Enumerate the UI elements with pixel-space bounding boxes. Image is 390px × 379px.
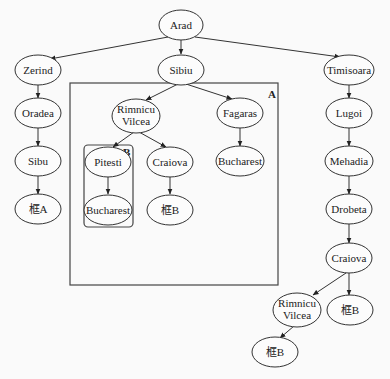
node-bucharest-pitesti: Bucharest xyxy=(84,195,132,225)
svg-text:Craiova: Craiova xyxy=(153,156,188,168)
node-timisoara: Timisoara xyxy=(324,55,374,85)
svg-text:Mehadia: Mehadia xyxy=(330,155,369,167)
node-frame-b-3: 框B xyxy=(252,337,298,367)
node-mehadia: Mehadia xyxy=(325,146,373,176)
edge-rimnicu-craiova xyxy=(139,132,166,147)
edge-craiova-rimnicu xyxy=(313,273,346,295)
svg-text:Lugoi: Lugoi xyxy=(336,107,362,119)
svg-text:Vilcea: Vilcea xyxy=(283,309,311,321)
svg-text:Pitesti: Pitesti xyxy=(94,156,122,168)
node-frame-b-1: 框B xyxy=(147,195,193,225)
svg-text:Arad: Arad xyxy=(170,19,192,31)
svg-text:Fagaras: Fagaras xyxy=(223,107,257,119)
node-arad: Arad xyxy=(159,10,203,40)
node-oradea: Oradea xyxy=(15,98,61,128)
edge-arad-timisoara xyxy=(195,37,340,57)
node-pitesti: Pitesti xyxy=(85,147,131,177)
edge-rimnicu-frameB xyxy=(280,326,294,338)
svg-text:Oradea: Oradea xyxy=(22,107,54,119)
svg-text:Rimnicu: Rimnicu xyxy=(278,297,316,309)
search-tree-diagram: A B Arad Zerind Sibiu Ti xyxy=(0,0,390,379)
svg-text:框B: 框B xyxy=(161,204,179,216)
svg-text:Rimnicu: Rimnicu xyxy=(117,103,155,115)
svg-text:框B: 框B xyxy=(266,346,284,358)
svg-text:框A: 框A xyxy=(29,203,48,215)
svg-text:Bucharest: Bucharest xyxy=(218,155,262,167)
svg-text:Sibiu: Sibiu xyxy=(169,64,193,76)
edge-sibiu-fagaras xyxy=(186,84,232,99)
node-craiova-2: Craiova xyxy=(326,243,372,273)
node-lugoi: Lugoi xyxy=(326,98,372,128)
node-drobeta: Drobeta xyxy=(326,194,372,224)
svg-text:Zerind: Zerind xyxy=(23,64,53,76)
svg-text:Timisoara: Timisoara xyxy=(327,64,371,76)
node-craiova-1: Craiova xyxy=(147,147,193,177)
edge-sibiu-rimnicu xyxy=(146,84,178,100)
node-zerind: Zerind xyxy=(15,55,61,85)
node-fagaras: Fagaras xyxy=(217,98,263,128)
node-frame-a: 框A xyxy=(15,194,61,224)
node-sibiu: Sibiu xyxy=(158,55,204,85)
svg-text:Bucharest: Bucharest xyxy=(86,204,130,216)
svg-text:Drobeta: Drobeta xyxy=(331,203,367,215)
node-sibu: Sibu xyxy=(15,146,61,176)
box-a-label: A xyxy=(268,88,276,100)
svg-text:Vilcea: Vilcea xyxy=(122,115,150,127)
node-rimnicu-vilcea-2: Rimnicu Vilcea xyxy=(273,293,321,327)
node-bucharest-fagaras: Bucharest xyxy=(216,146,264,176)
svg-text:框B: 框B xyxy=(341,304,359,316)
node-rimnicu-vilcea-1: Rimnicu Vilcea xyxy=(112,99,160,133)
svg-text:Sibu: Sibu xyxy=(28,155,49,167)
svg-text:Craiova: Craiova xyxy=(332,252,367,264)
node-frame-b-2: 框B xyxy=(327,295,373,325)
edge-arad-zerind xyxy=(50,37,168,59)
